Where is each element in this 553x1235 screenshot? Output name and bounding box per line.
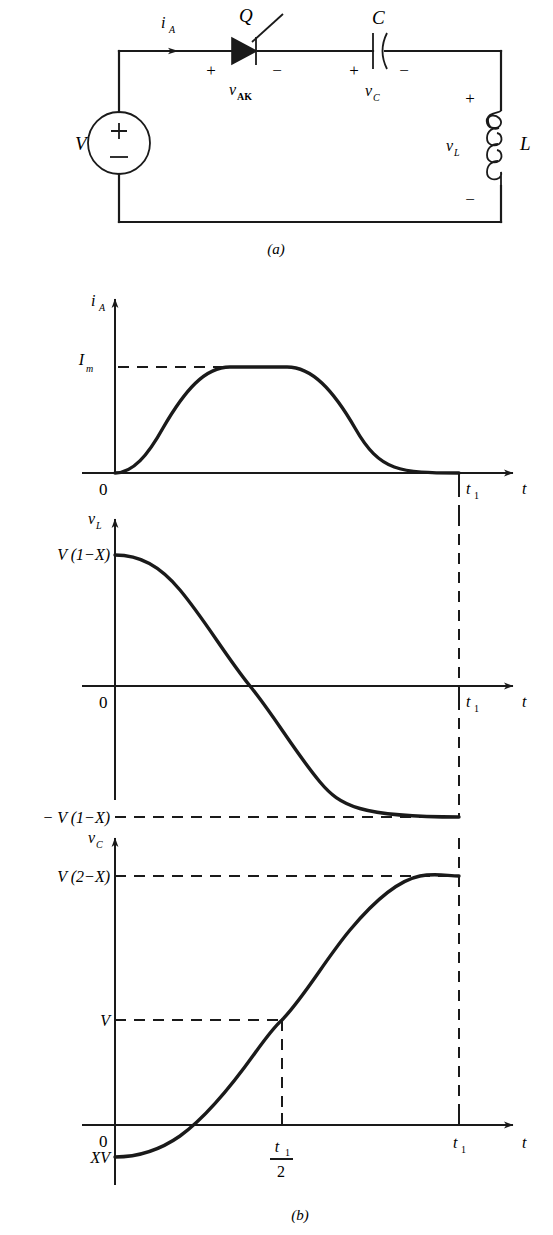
chart3-ytick-top-label: V (2−X) xyxy=(57,868,110,886)
chart1-ytick-im-label-sub: m xyxy=(86,363,93,374)
inductor-voltage-label-sub: L xyxy=(453,147,460,158)
voltage-source xyxy=(88,112,150,174)
inductor-minus-label: − xyxy=(465,190,475,209)
chart3-xtick-thalf-den: 2 xyxy=(277,1163,285,1180)
voltage-source-circle xyxy=(88,112,150,174)
figure-svg: + − + − + − V i A Q xyxy=(0,0,553,1235)
chart2-y-axis-label-sub: L xyxy=(95,520,102,531)
chart-capacitor-voltage: v C V (2−X) V 0 XV t 1 2 t 1 t xyxy=(57,829,527,1185)
circuit-labels: V i A Q v AK C v C v L L xyxy=(75,5,531,158)
thyristor-voltage-label: v xyxy=(229,81,237,98)
chart3-ytick-mid-label: V xyxy=(100,1012,112,1029)
chart3-y-axis-label: v xyxy=(88,829,96,846)
chart3-xtick-t1-label-sub: 1 xyxy=(461,1144,466,1155)
chart3-xtick-thalf-num-sub: 1 xyxy=(285,1147,290,1158)
capacitor-minus-label: − xyxy=(399,61,409,80)
current-label: i xyxy=(161,14,165,31)
chart1-y-axis-label-sub: A xyxy=(98,302,106,313)
inductor xyxy=(487,110,502,186)
chart1-curve xyxy=(115,367,459,473)
current-label-sub: A xyxy=(168,24,176,35)
chart3-x-axis-label: t xyxy=(522,1134,527,1151)
thyristor-voltage-label-sub: AK xyxy=(237,91,252,102)
voltage-source-plus-icon xyxy=(111,123,127,139)
chart1-x-axis-label: t xyxy=(522,480,527,497)
polarity-marks: + − + − + − xyxy=(206,61,475,209)
thyristor-minus-label: − xyxy=(272,61,282,80)
chart1-ytick-im-label: I xyxy=(78,351,85,368)
chart3-xtick-thalf-num: t xyxy=(275,1138,280,1155)
capacitor-voltage-label: v xyxy=(365,82,373,99)
inductor-coil-3 xyxy=(487,144,501,162)
chart3-xtick-thalf: t 1 2 xyxy=(270,1138,293,1180)
chart1-xtick-t1-label-sub: 1 xyxy=(474,490,479,501)
figure-root: + − + − + − V i A Q xyxy=(0,0,553,1235)
capacitor-label: C xyxy=(372,7,385,28)
thyristor-plus-label: + xyxy=(206,61,216,80)
circuit-wires xyxy=(119,51,501,222)
source-label: V xyxy=(75,133,89,154)
caption-b: (b) xyxy=(291,1207,309,1224)
chart2-xtick-t1-label-sub: 1 xyxy=(474,703,479,714)
inductor-coil-4 xyxy=(487,161,501,186)
chart2-x-axis-label: t xyxy=(522,693,527,710)
chart1-xtick-t1-label: t xyxy=(466,480,471,497)
chart3-curve xyxy=(115,875,459,1157)
thyristor-label: Q xyxy=(239,5,253,26)
capacitor-voltage-label-sub: C xyxy=(373,92,380,103)
inductor-label: L xyxy=(519,133,531,154)
inductor-plus-label: + xyxy=(465,89,475,108)
chart1-y-axis-label: i xyxy=(91,292,95,309)
inductor-coil-2 xyxy=(487,128,501,146)
chart-inductor-voltage: v L V (1−X) 0 − V (1−X) t 1 t xyxy=(42,510,527,827)
chart3-y-axis-label-sub: C xyxy=(96,839,103,850)
waveform-panel: i A I m 0 t 1 t xyxy=(42,292,527,1224)
chart-anode-current: i A I m 0 t 1 t xyxy=(78,292,527,515)
inductor-coil-1 xyxy=(487,110,501,129)
chart2-ytick-top-label: V (1−X) xyxy=(57,546,110,564)
chart2-ytick-bottom-label: − V (1−X) xyxy=(42,809,110,827)
chart2-y-axis-label: v xyxy=(88,510,96,527)
inductor-voltage-label: v xyxy=(446,137,454,154)
chart3-ytick-bottom-label: XV xyxy=(89,1149,112,1166)
chart1-origin-label: 0 xyxy=(99,480,108,499)
chart2-xtick-t1-label: t xyxy=(466,693,471,710)
thyristor-gate-lead xyxy=(252,14,283,42)
chart2-origin-label: 0 xyxy=(99,693,108,712)
caption-a: (a) xyxy=(267,241,285,258)
chart3-xtick-t1-label: t xyxy=(453,1134,458,1151)
capacitor-plus-label: + xyxy=(349,61,359,80)
circuit-diagram: + − + − + − V i A Q xyxy=(75,5,531,258)
